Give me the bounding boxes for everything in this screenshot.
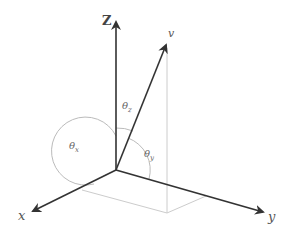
theta-z-arc: [116, 128, 133, 131]
theta-y-label: θy: [144, 149, 154, 162]
theta-z-subscript: z: [128, 106, 132, 114]
vector-angle-diagram: Z v x y θz θx θy: [0, 0, 290, 242]
z-axis-label: Z: [102, 14, 112, 27]
axes: [33, 22, 263, 212]
base-line-y-side: [167, 196, 206, 213]
theta-x-subscript: x: [75, 146, 79, 154]
vector-label: v: [168, 28, 174, 39]
diagram-canvas: [0, 0, 290, 242]
theta-z-label: θz: [122, 101, 132, 114]
theta-x-label: θx: [69, 141, 79, 154]
x-axis-label: x: [18, 209, 25, 222]
y-axis: [116, 170, 263, 212]
y-axis-label: y: [268, 210, 275, 223]
x-axis: [33, 170, 116, 211]
base-line-x-side: [82, 190, 167, 213]
projection-lines: [82, 48, 206, 213]
theta-y-subscript: y: [150, 154, 154, 162]
